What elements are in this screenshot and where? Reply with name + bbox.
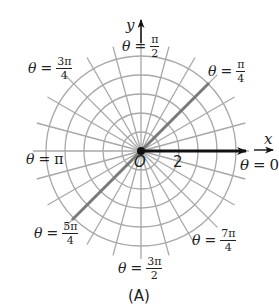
x-axis-label: x xyxy=(264,130,272,148)
angle-label-5pi-over-4: θ=5π4 xyxy=(34,221,78,246)
angle-label-3pi-over-4: θ=3π4 xyxy=(28,56,72,81)
angle-label-pi-over-4: θ=π4 xyxy=(208,59,245,84)
angle-label-zero: θ=0 xyxy=(240,158,279,173)
figure-caption: (A) xyxy=(128,287,150,305)
angle-label-pi: θ=π xyxy=(26,152,63,166)
origin-label: O xyxy=(134,153,146,171)
y-axis-label: y xyxy=(126,16,134,34)
angle-label-7pi-over-4: θ=7π4 xyxy=(192,228,236,253)
radius-tick-label: 2 xyxy=(173,153,183,171)
angle-label-pi-over-2: θ=π2 xyxy=(122,34,159,59)
angle-label-3pi-over-2: θ=3π2 xyxy=(118,256,162,281)
